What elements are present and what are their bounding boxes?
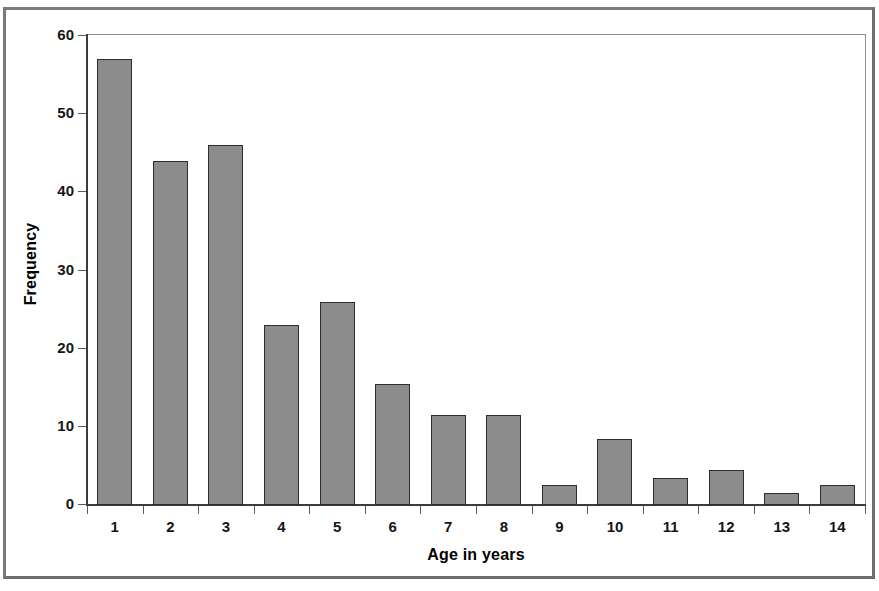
x-axis-tick: [254, 506, 255, 514]
bar-slot: [87, 35, 143, 505]
x-axis-tick-label: 8: [476, 518, 532, 535]
y-axis-tick: [78, 191, 86, 192]
bar-slot: [587, 35, 643, 505]
bar-slot: [476, 35, 532, 505]
x-axis-tick-labels: 1234567891011121314: [87, 518, 865, 535]
bar: [153, 161, 188, 505]
bar: [97, 59, 132, 505]
x-axis-tick: [754, 506, 755, 514]
x-axis-tick-label: 2: [143, 518, 199, 535]
bar-slot: [420, 35, 476, 505]
bar: [264, 325, 299, 505]
bar-slot: [754, 35, 810, 505]
bar: [542, 485, 577, 505]
bar: [320, 302, 355, 505]
bar-series: [87, 35, 865, 505]
y-axis-tick-label: 0: [12, 495, 74, 512]
x-axis-tick: [87, 506, 88, 514]
x-axis-tick-label: 11: [643, 518, 699, 535]
x-axis-tick: [698, 506, 699, 514]
bar-slot: [810, 35, 866, 505]
x-axis-tick-label: 7: [420, 518, 476, 535]
x-axis-tick: [643, 506, 644, 514]
x-axis-tick-label: 3: [198, 518, 254, 535]
x-axis-tick: [865, 506, 866, 514]
plot-area: [87, 35, 865, 505]
x-axis-tick-label: 4: [254, 518, 310, 535]
x-axis-tick-label: 9: [532, 518, 588, 535]
x-axis-tick-label: 1: [87, 518, 143, 535]
bar: [486, 415, 521, 505]
x-axis-tick: [143, 506, 144, 514]
y-axis-tick: [78, 270, 86, 271]
bar-slot: [309, 35, 365, 505]
x-axis-tick-label: 10: [587, 518, 643, 535]
y-axis-tick-label: 10: [12, 417, 74, 434]
y-axis-tick: [78, 348, 86, 349]
x-axis-tick: [587, 506, 588, 514]
y-axis-tick: [78, 504, 86, 505]
x-axis-tick-label: 12: [698, 518, 754, 535]
bar: [431, 415, 466, 505]
x-axis-tick: [309, 506, 310, 514]
bar-slot: [365, 35, 421, 505]
bar: [653, 478, 688, 505]
x-axis-tick: [420, 506, 421, 514]
y-axis-title: Frequency: [22, 174, 40, 354]
x-axis-title: Age in years: [87, 546, 865, 564]
bar: [375, 384, 410, 505]
x-axis-tick: [809, 506, 810, 514]
bar-slot: [143, 35, 199, 505]
bar-slot: [698, 35, 754, 505]
y-axis-tick: [78, 113, 86, 114]
bar-slot: [643, 35, 699, 505]
y-axis-tick: [78, 35, 86, 36]
bar: [764, 493, 799, 505]
x-axis-tick: [365, 506, 366, 514]
x-axis-tick: [532, 506, 533, 514]
x-axis-tick-label: 5: [309, 518, 365, 535]
y-axis-tick: [78, 426, 86, 427]
bar: [709, 470, 744, 505]
figure-page: 0102030405060 1234567891011121314 Age in…: [0, 0, 879, 591]
y-axis-tick-label: 60: [12, 26, 74, 43]
x-axis-tick-label: 13: [754, 518, 810, 535]
x-axis-tick-label: 14: [810, 518, 866, 535]
bar: [597, 439, 632, 505]
bar: [208, 145, 243, 505]
bar: [820, 485, 855, 505]
x-axis-tick: [198, 506, 199, 514]
y-axis-tick-label: 50: [12, 104, 74, 121]
bar-chart-figure: 0102030405060 1234567891011121314 Age in…: [0, 0, 879, 591]
bar-slot: [532, 35, 588, 505]
bar-slot: [198, 35, 254, 505]
x-axis-tick: [476, 506, 477, 514]
x-axis-tick-label: 6: [365, 518, 421, 535]
bar-slot: [254, 35, 310, 505]
